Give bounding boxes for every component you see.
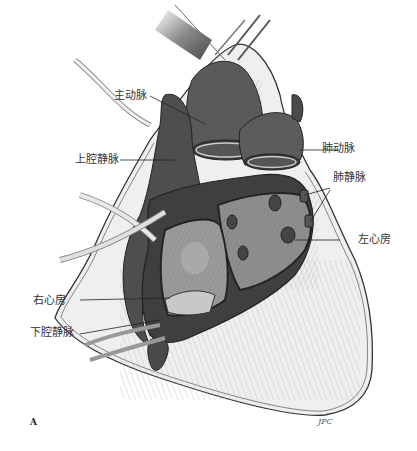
right-atrium <box>160 220 230 320</box>
label-left-atrium: 左心房 <box>358 234 391 246</box>
heart-surgery-illustration <box>0 0 417 451</box>
panel-label: A <box>30 417 37 427</box>
label-pulmonary-artery: 肺动脉 <box>322 143 355 155</box>
label-inferior-vena-cava: 下腔静脉 <box>30 327 74 339</box>
label-right-atrium: 右心房 <box>33 295 66 307</box>
label-aorta: 主动脉 <box>114 90 147 102</box>
label-pulmonary-veins: 肺静脉 <box>333 172 366 184</box>
artist-signature: JPC <box>318 417 333 426</box>
label-superior-vena-cava: 上腔静脉 <box>75 154 119 166</box>
